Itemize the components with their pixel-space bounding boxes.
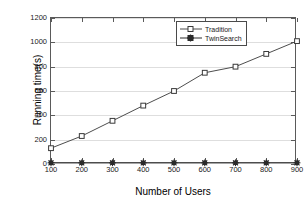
x-tick-mark [297,18,298,22]
data-point-marker [49,146,54,151]
data-point-marker [263,159,270,166]
y-tick-label: 400 [34,112,47,120]
y-tick-label: 1200 [30,14,47,22]
data-point-marker [140,159,147,166]
series-layer [51,18,297,164]
chart-figure: Running time(s) Number of Users 02004006… [0,0,307,203]
data-point-marker [78,159,85,166]
data-point-marker [141,103,146,108]
data-point-marker [202,70,207,75]
legend-label-twinsearch: TwinSearch [205,35,242,42]
data-point-marker [295,39,300,44]
x-axis-title: Number of Users [135,186,211,197]
y-tick-label: 1000 [30,39,47,47]
data-point-marker [264,51,269,56]
data-point-marker [79,134,84,139]
plot-area: 020040060080010001200 100200300400500600… [50,17,296,163]
series-line [51,41,297,148]
x-tick-label: 800 [260,166,273,174]
data-point-marker [172,89,177,94]
y-tick-label: 600 [34,87,47,95]
legend-swatch-open-square [180,25,202,33]
data-point-marker [110,118,115,123]
data-point-marker [233,64,238,69]
x-tick-label: 900 [291,166,304,174]
data-point-marker [232,159,239,166]
data-point-marker [109,159,116,166]
data-point-marker [171,159,178,166]
x-tick-label: 300 [106,166,119,174]
legend: Tradition TwinSearch [176,21,247,46]
x-tick-label: 700 [229,166,242,174]
data-point-marker [201,159,208,166]
x-tick-label: 400 [137,166,150,174]
legend-swatch-filled-square [180,34,202,42]
x-tick-label: 600 [198,166,211,174]
x-tick-label: 200 [75,166,88,174]
legend-item-tradition: Tradition [180,25,242,33]
legend-label-tradition: Tradition [205,26,232,33]
legend-item-twinsearch: TwinSearch [180,34,242,42]
data-point-marker [48,159,55,166]
x-tick-label: 500 [168,166,181,174]
y-tick-label: 200 [34,136,47,144]
data-point-marker [294,159,301,166]
x-tick-label: 100 [45,166,58,174]
y-tick-label: 800 [34,63,47,71]
